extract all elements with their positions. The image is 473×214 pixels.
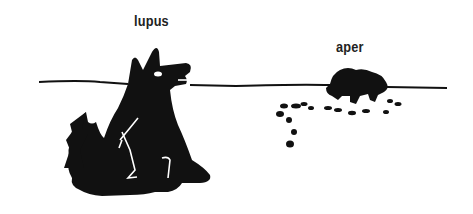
dirt-clumps bbox=[276, 99, 402, 148]
boar-icon bbox=[326, 68, 388, 104]
wolf-icon bbox=[64, 48, 210, 196]
scene-drawing bbox=[0, 0, 473, 214]
wolf-eye bbox=[154, 72, 162, 77]
